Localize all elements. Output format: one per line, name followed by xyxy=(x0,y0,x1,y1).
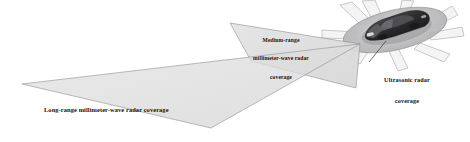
ultrasonic-label: Ultrasonic radar coverage xyxy=(371,63,443,119)
radar-coverage-diagram: Medium-range millimeter-wave radar cover… xyxy=(0,0,470,142)
medium-range-label: Medium-range millimeter-wave radar cover… xyxy=(235,24,327,93)
ultrasonic-beam-rear-right xyxy=(414,43,450,62)
ultrasonic-label-line2: coverage xyxy=(371,98,443,105)
medium-range-label-line3: coverage xyxy=(235,74,327,80)
medium-range-label-line2: millimeter-wave radar xyxy=(235,55,327,61)
medium-range-label-line1: Medium-range xyxy=(235,37,327,43)
long-range-label-line1: Long-range millimeter-wave radar coverag… xyxy=(44,106,169,113)
ultrasonic-label-line1: Ultrasonic radar xyxy=(371,77,443,84)
long-range-label: Long-range millimeter-wave radar coverag… xyxy=(44,92,169,128)
